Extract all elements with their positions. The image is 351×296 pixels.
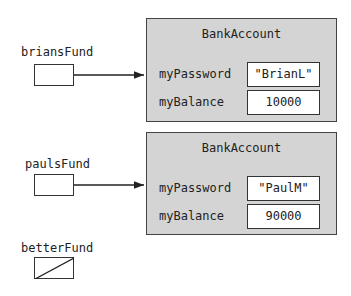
ref-box-paulsFund: [34, 174, 74, 196]
ref-label-betterFund: betterFund: [21, 241, 93, 255]
ref-box-betterFund-null: [34, 257, 74, 279]
ref-label-briansFund: briansFund: [21, 45, 93, 59]
object-class-name: BankAccount: [147, 27, 336, 41]
field-value-myBalance: 10000: [247, 90, 320, 115]
field-name-myPassword: myPassword: [159, 67, 231, 81]
null-slash-icon: [34, 257, 74, 279]
ref-box-briansFund: [34, 64, 74, 86]
field-value-myPassword: "PaulM": [247, 176, 320, 201]
field-name-myPassword: myPassword: [159, 181, 231, 195]
object-class-name: BankAccount: [147, 141, 336, 155]
ref-label-paulsFund: paulsFund: [25, 157, 90, 171]
bankaccount-object-1: BankAccount myPassword "BrianL" myBalanc…: [146, 18, 337, 122]
bankaccount-object-2: BankAccount myPassword "PaulM" myBalance…: [146, 132, 337, 235]
field-name-myBalance: myBalance: [159, 209, 224, 223]
field-value-myPassword: "BrianL": [247, 62, 320, 87]
field-name-myBalance: myBalance: [159, 95, 224, 109]
field-value-myBalance: 90000: [247, 204, 320, 229]
